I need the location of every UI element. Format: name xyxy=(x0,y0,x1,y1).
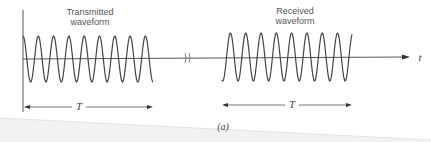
received-label-line2: waveform xyxy=(260,16,330,26)
transmitted-waveform-label: Transmitted waveform xyxy=(55,7,125,27)
time-axis-label: t xyxy=(415,52,425,62)
transmitted-label-line2: waveform xyxy=(55,17,125,27)
duration-label-right: T xyxy=(286,99,298,109)
arrowhead-right-icon xyxy=(147,105,153,109)
duration-label-left: T xyxy=(73,101,85,111)
transmitted-waveform xyxy=(23,36,153,82)
time-axis-arrowhead-icon xyxy=(402,55,410,60)
arrowhead-left-icon xyxy=(24,105,30,109)
arrowhead-right-icon xyxy=(346,103,352,107)
received-waveform-label: Received waveform xyxy=(260,6,330,26)
received-label-line1: Received xyxy=(260,6,330,16)
figure-caption: (a) xyxy=(212,122,234,132)
transmitted-label-line1: Transmitted xyxy=(55,7,125,17)
arrowhead-left-icon xyxy=(222,103,228,107)
